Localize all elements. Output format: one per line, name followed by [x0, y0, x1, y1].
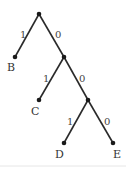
edge-label-root-n1: 0 — [55, 29, 61, 40]
internal-node-2 — [86, 98, 91, 103]
leaf-node-E — [111, 141, 116, 146]
edge-label-n2-E: 0 — [104, 116, 110, 127]
code-tree-diagram: 1 0 1 0 1 0 B C D E — [0, 0, 126, 169]
leaf-node-C — [37, 98, 42, 103]
edge-label-n2-D: 1 — [67, 116, 73, 127]
leaf-label-D: D — [55, 148, 64, 161]
leaf-label-C: C — [31, 105, 39, 118]
root-node — [37, 12, 42, 17]
leaf-node-D — [62, 141, 67, 146]
edge-root-B — [15, 14, 39, 57]
internal-node-1 — [62, 55, 67, 60]
edge-label-root-B: 1 — [20, 29, 26, 40]
leaf-label-B: B — [7, 61, 15, 74]
leaf-node-B — [13, 55, 18, 60]
leaf-label-E: E — [113, 148, 121, 161]
edge-label-n1-n2: 0 — [79, 73, 85, 84]
edge-label-n1-C: 1 — [43, 73, 49, 84]
